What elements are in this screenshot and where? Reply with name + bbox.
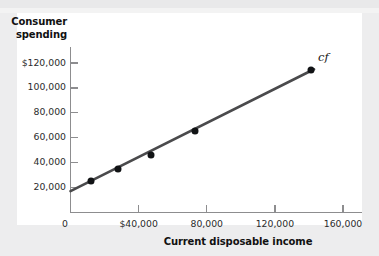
- data-point: [147, 152, 154, 159]
- data-point: [115, 165, 122, 172]
- series-label-cf: cf: [318, 50, 329, 64]
- data-point: [191, 128, 198, 135]
- data-point: [307, 67, 314, 74]
- consumption-function-chart: Consumer spending Current disposable inc…: [0, 0, 379, 256]
- data-point: [87, 178, 94, 185]
- fit-line-svg: [0, 0, 379, 256]
